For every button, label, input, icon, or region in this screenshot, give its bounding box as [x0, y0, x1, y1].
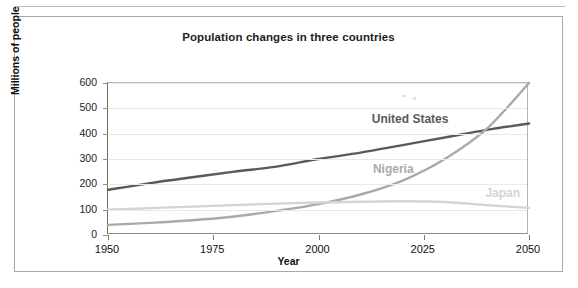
y-tick-mark: [103, 159, 108, 160]
x-tick-mark: [319, 235, 320, 240]
x-tick-label: 1975: [200, 243, 224, 255]
x-tick-label: 2050: [516, 243, 540, 255]
gridline: [108, 108, 527, 109]
x-tick-label: 2025: [411, 243, 435, 255]
y-tick-mark: [103, 210, 108, 211]
page-top-rule: [14, 0, 565, 7]
plot-area: [107, 82, 528, 234]
y-axis-title: Millions of people: [9, 6, 21, 95]
y-tick-label: 500: [79, 101, 97, 113]
y-tick-mark: [103, 83, 108, 84]
series-line-japan: [108, 201, 529, 209]
chart-title: Population changes in three countries: [15, 31, 562, 43]
figure-frame: Population changes in three countries Mi…: [14, 16, 563, 272]
gridline: [108, 134, 527, 135]
y-tick-mark: [103, 134, 108, 135]
x-tick-mark: [529, 235, 530, 240]
y-tick-label: 200: [79, 177, 97, 189]
y-tick-mark: [103, 108, 108, 109]
y-tick-label: 400: [79, 127, 97, 139]
y-tick-label: 300: [79, 152, 97, 164]
gridline: [108, 184, 527, 185]
series-label-japan: Japan: [485, 186, 520, 200]
y-tick-mark: [103, 184, 108, 185]
plot-inner: [108, 83, 527, 233]
x-axis-title: Year: [15, 255, 562, 267]
y-tick-label: 0: [91, 228, 97, 240]
gridline: [108, 159, 527, 160]
y-tick-label: 100: [79, 203, 97, 215]
series-label-united-states: United States: [372, 112, 449, 126]
x-tick-label: 1950: [95, 243, 119, 255]
y-tick-label: 600: [79, 76, 97, 88]
scan-speck: [413, 97, 416, 100]
chart-screenshot: Population changes in three countries Mi…: [0, 0, 578, 288]
gridline: [108, 210, 527, 211]
gridline: [108, 83, 527, 84]
x-tick-mark: [108, 235, 109, 240]
x-tick-mark: [424, 235, 425, 240]
series-label-nigeria: Nigeria: [373, 162, 414, 176]
x-tick-mark: [213, 235, 214, 240]
scan-speck: [401, 95, 406, 97]
x-tick-label: 2000: [305, 243, 329, 255]
